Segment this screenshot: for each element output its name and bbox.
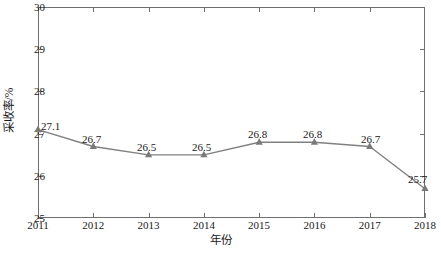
data-label-2017: 26.7 bbox=[361, 134, 380, 145]
x-tick-label-2015: 2015 bbox=[237, 219, 281, 231]
y-axis-title: 采收率/% bbox=[3, 66, 16, 156]
x-tick-label-2017: 2017 bbox=[348, 219, 392, 231]
data-label-2013: 26.5 bbox=[137, 142, 156, 153]
data-label-2015: 26.8 bbox=[248, 129, 267, 140]
x-tick-label-2011: 2011 bbox=[16, 219, 60, 231]
x-tick-label-2018: 2018 bbox=[403, 219, 441, 231]
data-label-2014: 26.5 bbox=[192, 142, 211, 153]
data-label-2012: 26.7 bbox=[82, 134, 101, 145]
chart-container: 30 29 28 27 26 25 2011 2012 2013 2014 20… bbox=[0, 0, 441, 264]
x-tick-label-2014: 2014 bbox=[182, 219, 226, 231]
data-label-2016: 26.8 bbox=[303, 129, 322, 140]
data-series-svg bbox=[38, 7, 425, 218]
data-point-marker bbox=[421, 185, 428, 192]
data-label-2011: 27.1 bbox=[41, 121, 60, 132]
x-tick-mark bbox=[425, 213, 426, 218]
x-tick-label-2016: 2016 bbox=[292, 219, 336, 231]
x-tick-label-2012: 2012 bbox=[71, 219, 115, 231]
x-axis-title: 年份 bbox=[0, 234, 441, 247]
data-label-2018: 25.7 bbox=[408, 174, 427, 185]
x-tick-label-2013: 2013 bbox=[127, 219, 171, 231]
